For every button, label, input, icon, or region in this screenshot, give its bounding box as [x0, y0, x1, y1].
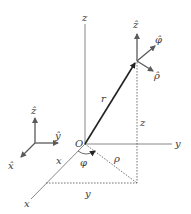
phi-label: φ — [80, 157, 87, 168]
rho-dashed-line — [85, 144, 137, 183]
height-label: z — [139, 117, 146, 128]
x-axis-line — [31, 144, 85, 199]
cylindrical-coordinates-diagram: O z y x r z ρ φ x y ẑ φ̂ ρ̂ ẑ ŷ x̂ — [0, 0, 191, 214]
unit-phi-arrow — [137, 46, 155, 61]
y-component-label: y — [84, 188, 91, 199]
frame-unit-x-label: x̂ — [8, 160, 14, 171]
frame-unit-z-label: ẑ — [30, 105, 37, 116]
rho-label: ρ — [113, 153, 120, 164]
frame-unit-x-arrow — [21, 143, 35, 157]
azimuth-arc — [78, 151, 95, 154]
position-vector-r — [85, 63, 135, 144]
z-axis-label: z — [81, 12, 88, 23]
position-vector-label: r — [101, 93, 107, 104]
unit-rho-arrow — [137, 61, 153, 71]
unit-z-at-point-label: ẑ — [132, 19, 139, 30]
unit-phi-label: φ̂ — [155, 34, 162, 45]
frame-unit-y-label: ŷ — [54, 130, 61, 141]
origin-label: O — [75, 138, 83, 149]
x-component-label: x — [56, 155, 62, 166]
unit-rho-label: ρ̂ — [153, 70, 160, 81]
x-axis-label: x — [24, 198, 30, 209]
y-axis-label: y — [174, 138, 181, 149]
